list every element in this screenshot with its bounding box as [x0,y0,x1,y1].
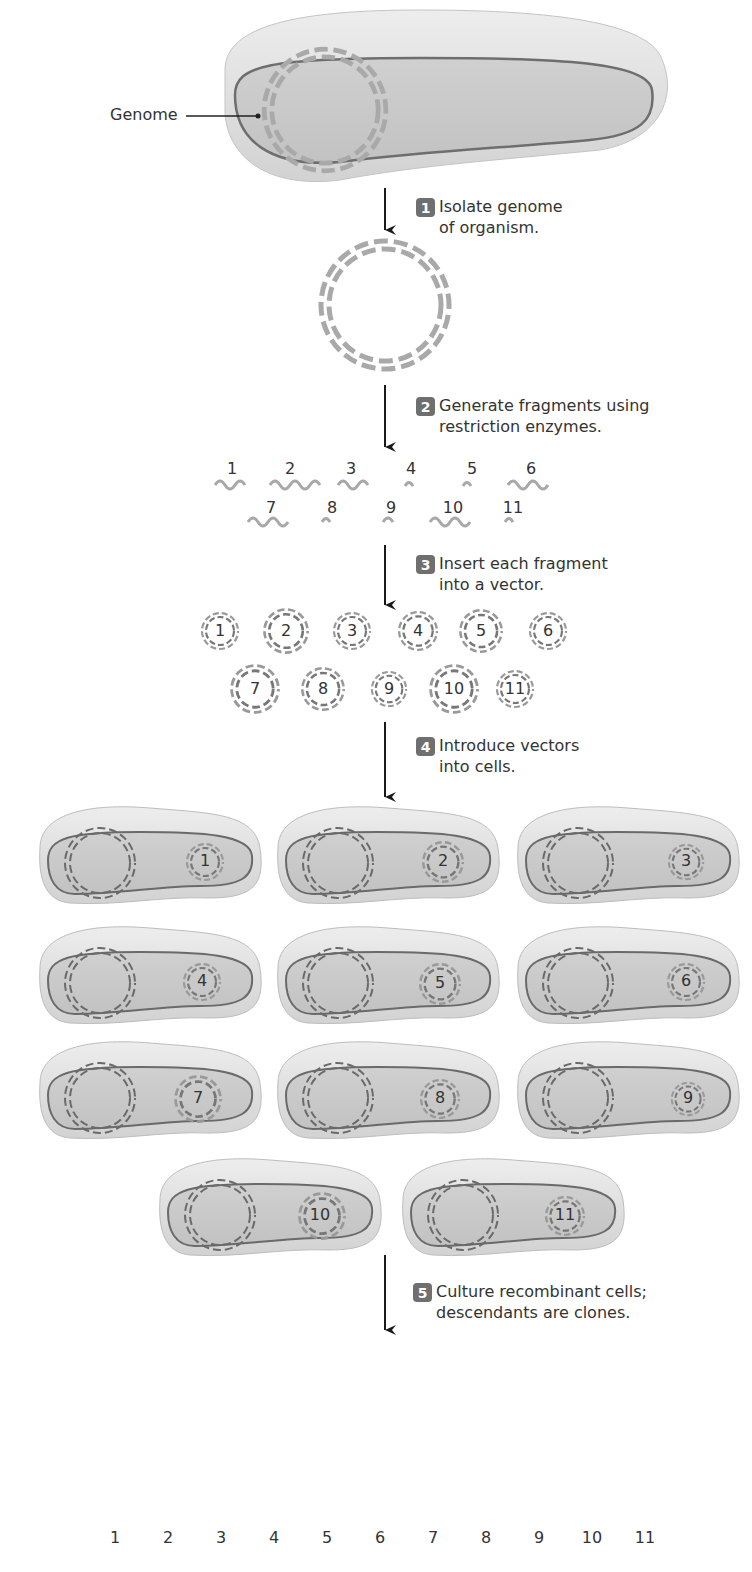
cell-label: 10 [305,1205,335,1224]
tube-label: 10 [577,1528,607,1547]
genome-label: Genome [110,104,178,126]
cell-label: 3 [676,851,696,870]
isolated-genome [321,241,449,369]
tube-label: 2 [153,1528,183,1547]
cell-label: 1 [195,851,215,870]
vector-label: 10 [439,679,469,698]
fragment-label: 11 [498,498,528,517]
step-4-badge: 4 [416,737,435,756]
cell-label: 7 [188,1088,208,1107]
step-4: 4 Introduce vectorsinto cells. [416,735,579,777]
vector-label: 3 [342,621,362,640]
vector-label: 11 [500,679,530,698]
cell-label: 8 [430,1088,450,1107]
tube-label: 3 [206,1528,236,1547]
vector-label: 9 [379,679,399,698]
step-1-badge: 1 [416,198,435,217]
step-2-badge: 2 [416,397,435,416]
fragment-label: 10 [438,498,468,517]
source-cell [225,10,668,182]
fragment-label: 3 [341,459,361,478]
diagram-graphics [0,0,752,1572]
tube-label: 5 [312,1528,342,1547]
fragment-label: 5 [462,459,482,478]
tube-label: 11 [630,1528,660,1547]
vector-label: 4 [408,621,428,640]
step-3: 3 Insert each fragmentinto a vector. [416,553,608,595]
vector-label: 1 [210,621,230,640]
fragment-label: 1 [222,459,242,478]
vector-label: 8 [313,679,333,698]
fragment-label: 8 [322,498,342,517]
vector-label: 6 [538,621,558,640]
cell-label: 2 [433,851,453,870]
tube-label: 7 [418,1528,448,1547]
tube-label: 6 [365,1528,395,1547]
cell-label: 4 [192,971,212,990]
step-5: 5 Culture recombinant cells;descendants … [413,1281,647,1323]
vector-label: 2 [276,621,296,640]
fragment-label: 7 [261,498,281,517]
vector-label: 5 [471,621,491,640]
step-1: 1 Isolate genomeof organism. [416,196,563,238]
step-3-badge: 3 [416,555,435,574]
tube-label: 4 [259,1528,289,1547]
step-2: 2 Generate fragments usingrestriction en… [416,395,649,437]
cell-label: 11 [550,1205,580,1224]
fragment-label: 9 [381,498,401,517]
cell-label: 9 [678,1088,698,1107]
recombinant-cells [40,807,739,1256]
fragment-label: 4 [401,459,421,478]
cell-label: 6 [676,971,696,990]
step-5-badge: 5 [413,1283,432,1302]
fragment-label: 6 [521,459,541,478]
cell-label: 5 [430,973,450,992]
tube-label: 1 [100,1528,130,1547]
vector-label: 7 [245,679,265,698]
tube-label: 9 [524,1528,554,1547]
tube-label: 8 [471,1528,501,1547]
fragment-label: 2 [280,459,300,478]
